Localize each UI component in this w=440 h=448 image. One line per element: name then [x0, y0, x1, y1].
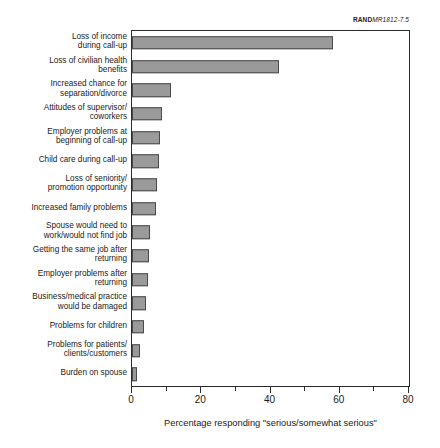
category-label-line: separation/divorce: [0, 89, 127, 99]
category-label-line: Problems for children: [0, 321, 127, 331]
category-label-line: would be damaged: [0, 302, 127, 312]
category-label-line: Increased family problems: [0, 203, 127, 213]
category-label: Employer problems afterreturning: [0, 269, 127, 288]
category-label: Attitudes of supervisor/coworkers: [0, 103, 127, 122]
x-tick-minor: [304, 387, 305, 391]
category-label: Increased chance forseparation/divorce: [0, 80, 127, 99]
category-label-line: benefits: [0, 66, 127, 76]
category-label-line: returning: [0, 279, 127, 289]
bar: [132, 320, 144, 334]
x-tick-minor: [166, 387, 167, 391]
category-label: Loss of civilian healthbenefits: [0, 56, 127, 75]
category-label-line: Loss of income: [0, 32, 127, 42]
x-tick-major: [270, 387, 271, 393]
x-tick-major: [408, 387, 409, 393]
rand-code: MR1812-7.5: [372, 16, 409, 23]
x-tick-major: [131, 387, 132, 393]
bar: [132, 36, 333, 50]
rand-prefix: RAND: [353, 16, 372, 23]
category-label: Child care during call-up: [0, 155, 127, 165]
category-label-line: Spouse would need to: [0, 222, 127, 232]
category-label-line: Attitudes of supervisor/: [0, 103, 127, 113]
category-label: Burden on spouse: [0, 368, 127, 378]
bar: [132, 131, 160, 145]
category-label: Loss of seniority/promotion opportunity: [0, 174, 127, 193]
category-label: Employer problems atbeginning of call-up: [0, 127, 127, 146]
category-label-line: promotion opportunity: [0, 184, 127, 194]
bar: [132, 154, 159, 168]
category-label-line: Child care during call-up: [0, 155, 127, 165]
category-label-line: Business/medical practice: [0, 293, 127, 303]
category-label-line: clients/customers: [0, 350, 127, 360]
bar: [132, 296, 146, 310]
chart-figure: RANDMR1812-7.5 Loss of incomeduring call…: [0, 0, 440, 448]
category-label-line: Burden on spouse: [0, 368, 127, 378]
category-label-line: beginning of call-up: [0, 137, 127, 147]
category-label: Getting the same job afterreturning: [0, 245, 127, 264]
x-axis-ticks: [131, 387, 410, 393]
category-label-line: Employer problems at: [0, 127, 127, 137]
bar: [132, 83, 171, 97]
x-tick-major: [200, 387, 201, 393]
x-tick-minor: [235, 387, 236, 391]
bars-layer: [132, 31, 409, 386]
category-label-line: Increased chance for: [0, 80, 127, 90]
x-axis-title: Percentage responding "serious/somewhat …: [131, 418, 410, 428]
category-label-line: work/would not find job: [0, 231, 127, 241]
x-tick-major: [339, 387, 340, 393]
bar: [132, 225, 150, 239]
x-tick-label: 60: [333, 394, 344, 405]
bar: [132, 202, 156, 216]
category-label: Spouse would need towork/would not find …: [0, 222, 127, 241]
category-label: Loss of incomeduring call-up: [0, 32, 127, 51]
category-label-line: Loss of seniority/: [0, 174, 127, 184]
category-label-line: Getting the same job after: [0, 245, 127, 255]
bar: [132, 60, 279, 74]
bar: [132, 178, 157, 192]
bar: [132, 107, 162, 121]
bar: [132, 367, 137, 381]
category-label-line: returning: [0, 255, 127, 265]
category-label: Business/medical practicewould be damage…: [0, 293, 127, 312]
bar: [132, 273, 148, 287]
category-label-line: Problems for patients/: [0, 340, 127, 350]
category-label: Problems for patients/clients/customers: [0, 340, 127, 359]
category-label: Increased family problems: [0, 203, 127, 213]
x-axis-tick-labels: 020406080: [131, 394, 410, 408]
category-label-line: coworkers: [0, 113, 127, 123]
bar: [132, 249, 149, 263]
category-label-line: Employer problems after: [0, 269, 127, 279]
x-tick-label: 20: [195, 394, 206, 405]
category-label: Problems for children: [0, 321, 127, 331]
x-tick-label: 80: [402, 394, 413, 405]
x-tick-label: 40: [264, 394, 275, 405]
rand-source-tag: RANDMR1812-7.5: [353, 16, 409, 23]
category-label-line: Loss of civilian health: [0, 56, 127, 66]
bar: [132, 344, 140, 358]
category-axis-labels: Loss of incomeduring call-upLoss of civi…: [0, 30, 127, 387]
x-tick-minor: [373, 387, 374, 391]
x-tick-label: 0: [128, 394, 134, 405]
category-label-line: during call-up: [0, 42, 127, 52]
